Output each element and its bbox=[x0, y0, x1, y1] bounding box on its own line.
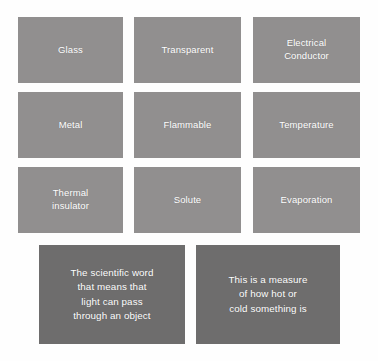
term-card-solute[interactable]: Solute bbox=[134, 167, 241, 233]
definition-card-text: The scientific word that means that ligh… bbox=[70, 266, 153, 323]
term-card-label: Temperature bbox=[279, 119, 333, 132]
term-card-transparent[interactable]: Transparent bbox=[134, 17, 241, 83]
term-card-label: Electrical Conductor bbox=[284, 37, 329, 63]
term-card-metal[interactable]: Metal bbox=[18, 92, 123, 158]
definition-card-temperature[interactable]: This is a measure of how hot or cold som… bbox=[196, 245, 340, 344]
term-card-label: Thermal insulator bbox=[52, 187, 89, 213]
term-card-thermal-insulator[interactable]: Thermal insulator bbox=[18, 167, 123, 233]
term-card-electrical-conductor[interactable]: Electrical Conductor bbox=[253, 17, 360, 83]
definition-card-transparent[interactable]: The scientific word that means that ligh… bbox=[39, 245, 185, 344]
term-card-label: Evaporation bbox=[281, 194, 333, 207]
vocabulary-matching-board: Glass Transparent Electrical Conductor M… bbox=[0, 0, 378, 361]
term-card-label: Metal bbox=[59, 119, 83, 132]
term-card-temperature[interactable]: Temperature bbox=[253, 92, 360, 158]
term-card-label: Solute bbox=[174, 194, 202, 207]
term-card-flammable[interactable]: Flammable bbox=[134, 92, 241, 158]
term-card-label: Glass bbox=[58, 44, 83, 57]
term-card-label: Transparent bbox=[162, 44, 214, 57]
term-card-glass[interactable]: Glass bbox=[18, 17, 123, 83]
term-card-evaporation[interactable]: Evaporation bbox=[253, 167, 360, 233]
term-card-label: Flammable bbox=[164, 119, 212, 132]
definition-card-text: This is a measure of how hot or cold som… bbox=[228, 273, 307, 316]
